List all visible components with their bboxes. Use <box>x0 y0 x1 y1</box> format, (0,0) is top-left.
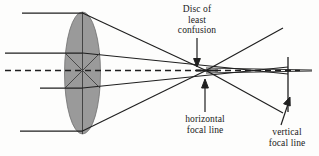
label-disc-line-3: confusion <box>163 25 231 36</box>
label-vertical-focal-line: vertical focal line <box>255 127 319 148</box>
optics-ray-diagram: Disc of least confusion horizontal focal… <box>0 0 319 156</box>
refracted-ray-cross-to-lower-right <box>206 71 283 114</box>
label-disc-line-2: least <box>163 15 231 26</box>
label-disc-line-1: Disc of <box>163 4 231 15</box>
label-horizontal-focal-line: horizontal focal line <box>165 114 245 135</box>
label-horizontal-line-1: horizontal <box>165 114 245 125</box>
label-vertical-line-2: focal line <box>255 138 319 149</box>
label-vertical-line-1: vertical <box>255 127 319 138</box>
arrow-up-icon <box>202 79 209 112</box>
label-horizontal-line-2: focal line <box>165 125 245 136</box>
label-disc-of-least-confusion: Disc of least confusion <box>163 4 231 36</box>
arrow-up-right-icon <box>281 97 290 125</box>
arrow-down-icon <box>194 38 201 67</box>
